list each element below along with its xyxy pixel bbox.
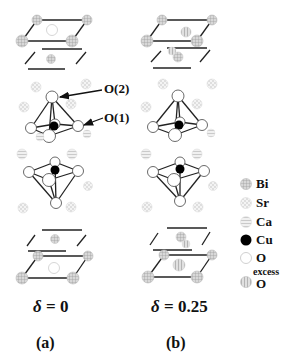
- legend-bi-label: Bi: [256, 176, 268, 192]
- legend-cu-label: Cu: [256, 232, 273, 248]
- legend-bi-icon: [241, 179, 252, 190]
- legend-ca-label: Ca: [256, 214, 272, 230]
- legend-ca-icon: [241, 217, 252, 228]
- legend-o-label: O: [256, 250, 266, 266]
- o2-arrow: [60, 90, 102, 97]
- legend-sr-label: Sr: [256, 195, 269, 211]
- legend-cu-icon: [241, 235, 252, 246]
- panel-b-structure: [141, 15, 218, 283]
- delta-symbol: δ: [151, 297, 160, 316]
- o1-arrow: [84, 118, 103, 125]
- panel-a-structure: [16, 15, 103, 284]
- panel-a-label: (a): [36, 334, 55, 352]
- o1-label: O(1): [104, 110, 129, 126]
- legend-excess-o-label: O: [256, 276, 266, 292]
- legend-o-icon: [241, 253, 252, 264]
- panel-a-delta: δ = 0: [33, 297, 68, 317]
- legend-excess-o-icon: [241, 277, 252, 288]
- delta-symbol: δ: [33, 297, 42, 316]
- panel-b-delta: δ = 0.25: [151, 297, 208, 317]
- legend-sr-icon: [241, 198, 252, 209]
- panel-b-label: (b): [166, 334, 186, 352]
- legend-swatches: [241, 179, 252, 288]
- o2-label: O(2): [104, 81, 129, 97]
